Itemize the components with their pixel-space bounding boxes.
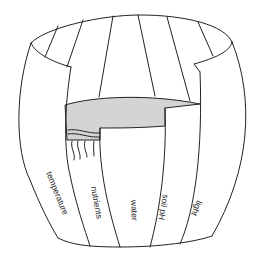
barrel-rim-back — [31, 15, 232, 43]
stave-label-water: water — [129, 199, 140, 221]
stave-label-nutrients: nutrients — [89, 186, 105, 220]
stave-label-soil-ph: soil pH — [157, 194, 171, 221]
barrel-bottom — [58, 236, 212, 247]
stave-label-temperature: temperature — [44, 170, 71, 216]
barrel-outer-right — [212, 42, 246, 236]
barrel-outer-left — [19, 43, 58, 238]
limiting-factor-barrel-diagram: temperature nutrients water soil pH ligh… — [0, 0, 265, 261]
barrel-rim-left-cutout — [31, 43, 71, 67]
stave-label-light: light — [189, 199, 204, 218]
barrel-back-staves — [45, 15, 213, 101]
water-surface — [65, 97, 200, 140]
barrel-rim-right-cutout — [194, 42, 232, 72]
